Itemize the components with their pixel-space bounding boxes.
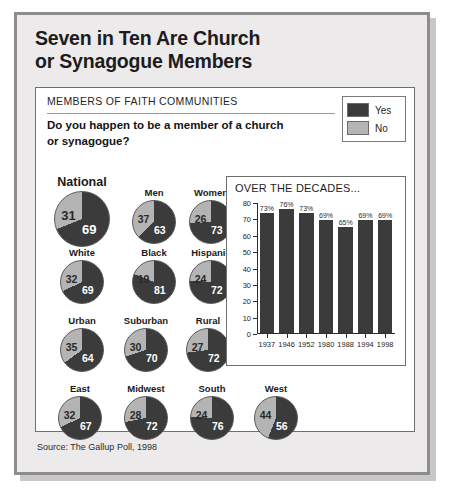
headline-line-1: Seven in Ten Are Church [35, 27, 395, 50]
pie-value-no-white: 32 [66, 274, 78, 285]
x-axis-label-1952: 1952 [298, 340, 315, 349]
content-card: MEMBERS OF FAITH COMMUNITIES Do you happ… [35, 87, 415, 432]
pie-value-yes-west: 56 [276, 421, 288, 432]
y-axis-tick-label: 70 [243, 215, 251, 224]
y-axis-tick [253, 318, 257, 319]
pie-value-yes-black: 81 [154, 285, 166, 296]
pie-value-no-south: 24 [196, 410, 208, 421]
pie-value-yes-hispanic: 72 [211, 285, 223, 296]
y-axis-tick-label: 80 [243, 199, 251, 208]
pie-value-yes-rural: 72 [208, 353, 220, 364]
legend-item-no: No [347, 119, 401, 137]
x-axis-tick [346, 334, 347, 338]
pie-label-urban: Urban [46, 316, 118, 326]
pie-disc-wrap: 2476 [190, 396, 234, 440]
y-axis-tick [253, 203, 257, 204]
y-axis-tick [253, 285, 257, 286]
y-axis-tick [253, 219, 257, 220]
pie-label-west: West [240, 384, 312, 394]
pie-chart-south: South2476 [176, 384, 248, 440]
bar-value-label-1998: 69% [378, 212, 393, 219]
pie-disc-wrap: 3269 [60, 260, 104, 304]
bar-value-label-1994: 69% [358, 212, 373, 219]
bar-value-label-1980: 69% [319, 212, 334, 219]
y-axis-tick-label: 20 [243, 297, 251, 306]
pie-chart-national: National3169 [40, 176, 124, 247]
bar-chart-plot: 0102030405060708073%193776%194673%195269… [257, 203, 395, 334]
pie-value-yes-women: 73 [211, 225, 223, 236]
pie-chart-urban: Urban3564 [46, 316, 118, 372]
pie-disc-wrap: 3070 [124, 328, 168, 372]
pie-disc-wrap: 2872 [124, 396, 168, 440]
pie-value-yes-suburban: 70 [146, 353, 158, 364]
headline-line-2: or Synagogue Members [35, 50, 395, 73]
y-axis-tick-label: 60 [243, 231, 251, 240]
pie-disc-wrap: 3564 [60, 328, 104, 372]
pie-label-national: National [40, 176, 124, 189]
y-axis-tick [253, 301, 257, 302]
poll-question: Do you happen to be a member of a church… [47, 118, 339, 149]
pie-chart-white: White3269 [46, 248, 118, 304]
poll-question-line-2: or synagogue? [47, 134, 339, 150]
pie-disc-wrap: 1981 [132, 260, 176, 304]
page-title: Seven in Ten Are Church or Synagogue Mem… [35, 27, 395, 73]
legend-item-yes: Yes [347, 101, 401, 119]
y-axis-tick [253, 269, 257, 270]
pie-value-no-rural: 27 [192, 342, 204, 353]
bar-value-label-1946: 76% [279, 201, 294, 208]
kicker-divider [47, 113, 335, 114]
infographic-poster: Seven in Ten Are Church or Synagogue Mem… [14, 12, 430, 475]
x-axis-tick [306, 334, 307, 338]
bar-1998 [378, 220, 393, 333]
legend-label-yes: Yes [375, 105, 391, 116]
pie-disc-wrap: 2772 [186, 328, 230, 372]
y-axis-tick [253, 334, 257, 335]
bar-1937 [260, 213, 275, 333]
x-axis-label-1994: 1994 [357, 340, 374, 349]
x-axis-tick [326, 334, 327, 338]
pie-value-no-suburban: 30 [130, 342, 142, 353]
pie-value-yes-east: 67 [80, 421, 92, 432]
x-axis-tick [365, 334, 366, 338]
x-axis-label-1937: 1937 [259, 340, 276, 349]
x-axis-label-1988: 1988 [337, 340, 354, 349]
pie-chart-east: East3267 [44, 384, 116, 440]
y-axis-tick-label: 10 [243, 313, 251, 322]
pie-chart-midwest: Midwest2872 [110, 384, 182, 440]
pie-value-yes-national: 69 [82, 223, 96, 236]
bar-1952 [299, 213, 314, 333]
bar-1946 [279, 209, 294, 333]
x-axis-label-1980: 1980 [318, 340, 335, 349]
pie-value-no-east: 32 [64, 410, 76, 421]
x-axis-tick [287, 334, 288, 338]
bar-1980 [319, 220, 334, 333]
legend-swatch-no [347, 121, 369, 135]
y-axis-tick-label: 40 [243, 264, 251, 273]
card-kicker: MEMBERS OF FAITH COMMUNITIES [47, 95, 238, 107]
pie-value-no-urban: 35 [66, 342, 78, 353]
pie-value-no-men: 37 [138, 214, 150, 225]
pie-chart-west: West4456 [240, 384, 312, 440]
bar-chart-title: OVER THE DECADES... [235, 182, 360, 194]
bar-value-label-1952: 73% [299, 205, 314, 212]
pie-disc-wrap: 3169 [54, 191, 110, 247]
bar-value-label-1988: 65% [338, 219, 353, 226]
pie-value-yes-midwest: 72 [146, 421, 158, 432]
pie-label-east: East [44, 384, 116, 394]
bar-1988 [338, 227, 353, 333]
y-axis-tick-label: 30 [243, 280, 251, 289]
pie-value-no-hispanic: 24 [195, 274, 207, 285]
bar-1994 [358, 220, 373, 333]
pie-value-yes-men: 63 [154, 225, 166, 236]
x-axis-label-1998: 1998 [377, 340, 394, 349]
pie-value-no-women: 26 [195, 214, 207, 225]
pie-value-yes-urban: 64 [82, 353, 94, 364]
pie-value-yes-white: 69 [82, 285, 94, 296]
pie-label-south: South [176, 384, 248, 394]
pie-value-no-national: 31 [61, 209, 75, 222]
pie-value-no-midwest: 28 [130, 410, 142, 421]
legend-swatch-yes [347, 103, 369, 117]
pie-value-no-black: 19 [138, 274, 150, 285]
pie-value-yes-south: 76 [212, 421, 224, 432]
x-axis-tick [267, 334, 268, 338]
